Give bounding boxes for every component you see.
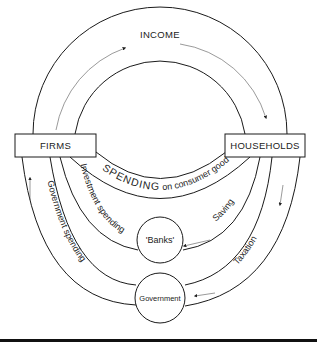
firms-label: FIRMS (40, 140, 71, 151)
government-spending-label: Government spending (45, 179, 88, 263)
svg-text:Government spending: Government spending (45, 179, 88, 263)
svg-text:Taxation: Taxation (231, 234, 258, 267)
saving-label: Saving (211, 197, 236, 224)
bottom-rule (0, 339, 317, 342)
spending-label: SPENDING (101, 161, 161, 192)
households-node: HOUSEHOLDS (225, 134, 305, 157)
firms-node: FIRMS (15, 134, 96, 157)
svg-text:SPENDING on consumer goods: SPENDING on consumer goods (0, 0, 231, 192)
government-label: Government (139, 294, 181, 303)
income-label: INCOME (140, 29, 180, 40)
government-node: Government (135, 273, 185, 323)
income-loop: INCOME (33, 7, 287, 134)
households-label: HOUSEHOLDS (230, 140, 300, 151)
svg-text:Saving: Saving (211, 197, 236, 224)
circular-flow-diagram: INCOME SPENDING on consumer goods Invest… (0, 0, 317, 345)
banks-label: 'Banks' (146, 235, 175, 245)
consumer-goods-label: on consumer goods (0, 0, 231, 192)
taxation-label: Taxation (231, 234, 258, 267)
banks-node: 'Banks' (137, 217, 183, 263)
